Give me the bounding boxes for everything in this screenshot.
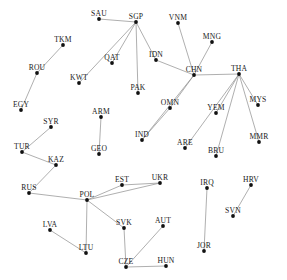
graph-node-label: BRU — [208, 146, 225, 155]
graph-node-label: EGY — [13, 100, 30, 109]
graph-node-label: OMN — [161, 98, 180, 107]
graph-node-label: LVA — [43, 220, 58, 229]
graph-node-label: UKR — [152, 173, 169, 182]
graph-node-label: SGP — [129, 12, 144, 21]
graph-node-label: SVN — [225, 206, 241, 215]
graph-node-label: SVK — [116, 218, 132, 227]
graph-node-label: SAU — [91, 9, 107, 18]
graph-node-label: IRQ — [200, 178, 214, 187]
graph-node-label: ARE — [177, 138, 193, 147]
graph-node-label: ROU — [29, 63, 46, 72]
graph-node-label: HUN — [157, 256, 174, 265]
graph-node-label: YEM — [207, 103, 225, 112]
graph-node-label: MNG — [203, 32, 222, 41]
graph-node-label: LTU — [79, 243, 94, 252]
graph-edge — [216, 74, 239, 156]
edges-layer — [21, 19, 259, 267]
labels-layer: SAUSGPVNMMNGTKMQATIDNCHNTHAROUKWTPAKMYSE… — [13, 9, 269, 266]
graph-node-label: PAK — [130, 83, 145, 92]
graph-node-label: POL — [80, 190, 95, 199]
graph-node-label: QAT — [104, 53, 120, 62]
graph-node-label: RUS — [21, 183, 36, 192]
graph-node-label: KAZ — [48, 155, 64, 164]
graph-edge — [194, 74, 239, 75]
graph-node-label: HRV — [243, 175, 259, 184]
graph-node-label: THA — [231, 64, 248, 73]
graph-edge — [126, 266, 166, 267]
network-graph-figure: SAUSGPVNMMNGTKMQATIDNCHNTHAROUKWTPAKMYSE… — [0, 0, 287, 280]
graph-node-label: MMR — [249, 132, 269, 141]
graph-node-label: CZE — [119, 257, 134, 266]
graph-node-label: ARM — [92, 107, 110, 116]
graph-node-label: KWT — [70, 73, 88, 82]
graph-node-label: AUT — [155, 216, 171, 225]
graph-node-label: MYS — [249, 95, 266, 104]
graph-canvas: SAUSGPVNMMNGTKMQATIDNCHNTHAROUKWTPAKMYSE… — [0, 0, 287, 280]
graph-node-label: GEO — [91, 144, 108, 153]
graph-node-label: TKM — [54, 35, 72, 44]
graph-node-label: IDN — [149, 50, 163, 59]
graph-node-label: CHN — [186, 65, 203, 74]
graph-node-label: JOR — [197, 241, 212, 250]
graph-edge — [29, 193, 87, 200]
nodes-layer — [19, 17, 261, 269]
graph-node-label: EST — [115, 175, 129, 184]
graph-node-label: IND — [135, 130, 149, 139]
graph-node-label: TUR — [14, 142, 31, 151]
graph-node-label: VNM — [169, 13, 187, 22]
graph-edge — [142, 75, 194, 140]
graph-node-label: SYR — [43, 117, 59, 126]
